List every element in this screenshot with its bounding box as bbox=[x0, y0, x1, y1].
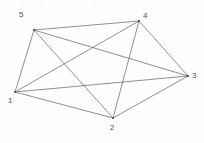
graph-vertex-2 bbox=[112, 117, 114, 119]
graph-canvas bbox=[0, 0, 204, 143]
edge-layer bbox=[15, 21, 188, 118]
vertex-label-2: 2 bbox=[110, 124, 114, 132]
graph-edge-1-3 bbox=[15, 76, 188, 92]
vertex-label-1: 1 bbox=[8, 97, 12, 105]
vertex-label-4: 4 bbox=[143, 12, 147, 20]
graph-edge-1-2 bbox=[15, 92, 113, 118]
graph-vertex-1 bbox=[14, 91, 16, 93]
graph-diagram: 12345 bbox=[0, 0, 204, 143]
vertex-label-5: 5 bbox=[19, 11, 23, 19]
graph-vertex-4 bbox=[138, 20, 140, 22]
vertex-label-3: 3 bbox=[192, 72, 196, 80]
graph-edge-2-4 bbox=[113, 21, 139, 118]
graph-vertex-3 bbox=[187, 75, 189, 77]
graph-edge-4-5 bbox=[34, 21, 139, 30]
graph-vertex-5 bbox=[33, 29, 35, 31]
graph-edge-3-4 bbox=[139, 21, 188, 76]
graph-edge-2-3 bbox=[113, 76, 188, 118]
vertex-layer bbox=[14, 20, 189, 119]
